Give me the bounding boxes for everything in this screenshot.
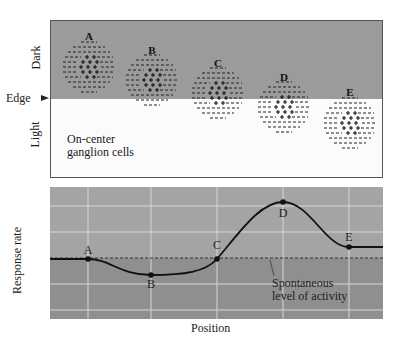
- receptive-field-e: E: [324, 86, 376, 148]
- point-label-d: D: [279, 206, 288, 220]
- receptive-field-b: B: [126, 44, 178, 105]
- edge-arrow-icon: [41, 95, 49, 101]
- point-label-c: C: [213, 238, 221, 252]
- svg-text:A: A: [85, 30, 93, 42]
- point-label-e: E: [345, 230, 352, 244]
- svg-text:B: B: [148, 44, 156, 56]
- point-label-b: B: [147, 277, 155, 291]
- dark-label: Dark: [29, 46, 44, 70]
- cell-type-label: On-center ganglion cells: [67, 133, 134, 159]
- svg-text:C: C: [214, 57, 222, 69]
- x-axis-label: Position: [191, 321, 230, 336]
- edge-label: Edge: [6, 91, 31, 106]
- cell-type-line2: ganglion cells: [67, 146, 134, 159]
- y-axis-label: Response rate: [10, 216, 25, 306]
- annotation-line1: Spontaneous: [272, 276, 334, 290]
- response-chart: A B C D E Spontaneous level of activity: [50, 187, 383, 319]
- svg-text:E: E: [346, 86, 353, 98]
- receptive-field-c: C: [192, 57, 244, 118]
- stimulus-panel: A B C D E On-center ganglion cells: [50, 20, 383, 178]
- light-label: Light: [28, 122, 43, 148]
- svg-text:D: D: [280, 71, 288, 83]
- annotation-line2: level of activity: [272, 289, 347, 303]
- receptive-field-a: A: [63, 30, 115, 92]
- point-label-a: A: [84, 243, 93, 257]
- receptive-field-d: D: [258, 71, 310, 132]
